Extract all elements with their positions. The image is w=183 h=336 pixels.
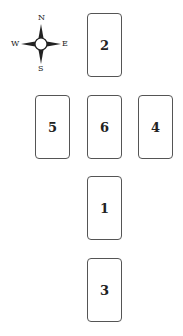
compass-west-label: W (11, 39, 19, 48)
card-5: 5 (35, 95, 70, 159)
card-label: 1 (100, 201, 109, 216)
compass-east-label: E (62, 39, 68, 48)
compass-north-label: N (38, 13, 45, 22)
card-1: 1 (87, 176, 122, 240)
card-4: 4 (138, 95, 173, 159)
card-label: 2 (100, 38, 109, 53)
card-label: 6 (100, 120, 109, 135)
card-2: 2 (87, 13, 122, 77)
card-label: 4 (151, 120, 160, 135)
compass-rose: N S E W (8, 14, 68, 74)
card-3: 3 (87, 258, 122, 322)
card-label: 5 (48, 120, 57, 135)
card-6: 6 (87, 95, 122, 159)
compass-south-label: S (38, 64, 43, 73)
card-label: 3 (100, 283, 109, 298)
